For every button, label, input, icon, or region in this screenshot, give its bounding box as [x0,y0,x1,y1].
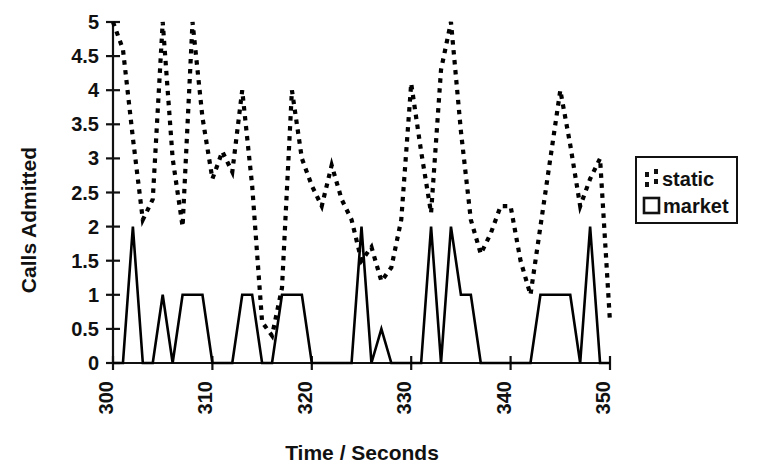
y-axis-title: Calls Admitted [17,147,40,293]
y-tick-label: 1.5 [71,250,99,272]
y-tick-label: 0.5 [71,318,99,340]
y-tick-label: 3.5 [71,113,99,135]
y-tick-label: 1 [88,284,99,306]
x-tick-label: 320 [294,381,316,414]
x-axis-title: Time / Seconds [285,441,439,464]
legend-label-market: market [663,195,729,217]
y-axis-tick-labels: 00.511.522.533.544.55 [71,11,100,374]
chart-figure: 00.511.522.533.544.55 300310320330340350… [0,0,776,473]
calls-admitted-line-chart: 00.511.522.533.544.55 300310320330340350… [0,0,776,473]
y-tick-label: 3 [88,147,99,169]
open-square-swatch-icon [644,198,659,213]
x-tick-label: 340 [493,381,515,414]
legend-entry-market: market [644,195,729,217]
x-tick-label: 300 [95,381,117,414]
y-tick-label: 5 [88,11,99,33]
y-tick-label: 2.5 [71,182,99,204]
x-tick-label: 330 [393,381,415,414]
x-tick-label: 350 [592,381,614,414]
legend-label-static: static [662,168,714,190]
y-tick-label: 4.5 [71,45,99,67]
y-tick-label: 4 [88,79,100,101]
y-tick-label: 2 [88,216,99,238]
chart-legend: static market [636,157,737,223]
x-tick-label: 310 [194,381,216,414]
y-tick-label: 0 [88,352,99,374]
